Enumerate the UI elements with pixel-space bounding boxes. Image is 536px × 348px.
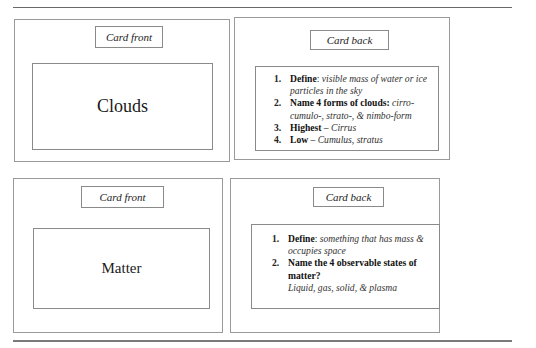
term-box: Clouds [32, 63, 213, 150]
qa-item: 2.Name 4 forms of clouds: cirro-cumulo-,… [274, 97, 434, 121]
card-term: Matter [34, 229, 209, 308]
card-side-label: Card back [310, 30, 389, 50]
item-question: Highest [290, 122, 321, 133]
card-side-label: Card back [313, 187, 384, 207]
bottom-rule [13, 340, 512, 342]
item-question: Define [290, 73, 317, 84]
item-number: 3. [274, 122, 281, 134]
qa-item: 1.Define: visible mass of water or ice p… [274, 73, 434, 97]
item-number: 1. [272, 233, 279, 245]
flashcard-back-matter: Card back 1.Define: something that has m… [230, 178, 440, 333]
top-rule [13, 7, 512, 8]
item-question: Name the 4 observable states of matter? [288, 257, 417, 280]
item-answer: Cirrus [331, 122, 356, 133]
term-box: Matter [33, 228, 210, 309]
qa-item: 1.Define: something that has mass & occu… [272, 233, 434, 257]
qa-item: 3.Highest – Cirrus [274, 122, 434, 134]
card-side-label: Card front [81, 186, 164, 208]
item-question: Name 4 forms of clouds: [290, 97, 390, 108]
card-term: Clouds [33, 64, 212, 149]
card-side-label: Card front [95, 26, 163, 48]
qa-list: 1.Define: something that has mass & occu… [272, 233, 434, 294]
item-number: 4. [274, 134, 281, 146]
item-number: 2. [274, 97, 281, 109]
qa-item: 4.Low – Cumulus, stratus [274, 134, 434, 146]
qa-list: 1.Define: visible mass of water or ice p… [274, 73, 434, 146]
item-answer: Liquid, gas, solid, & plasma [288, 282, 434, 294]
flashcard-front-clouds: Card front Clouds [14, 19, 230, 162]
qa-box: 1.Define: something that has mass & occu… [251, 224, 440, 309]
flashcard-front-matter: Card front Matter [13, 178, 223, 333]
item-question: Define [288, 233, 315, 244]
item-separator: – [308, 134, 318, 145]
item-number: 1. [274, 73, 281, 85]
flashcard-back-clouds: Card back 1.Define: visible mass of wate… [234, 17, 450, 160]
item-answer: Cumulus, stratus [318, 134, 383, 145]
item-number: 2. [272, 257, 279, 269]
item-separator: – [321, 122, 331, 133]
item-question: Low [290, 134, 308, 145]
qa-item: 2.Name the 4 observable states of matter… [272, 257, 434, 294]
qa-box: 1.Define: visible mass of water or ice p… [255, 66, 439, 151]
